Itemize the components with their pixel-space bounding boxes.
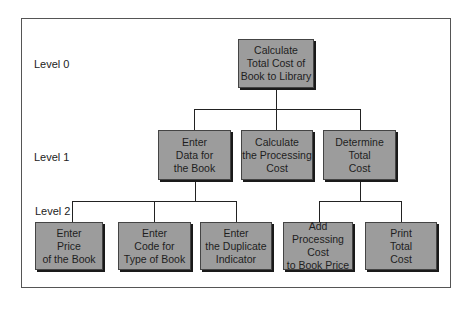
node-add-processing-cost: Add Processing Cost to Book Price — [283, 222, 353, 270]
node-calculate-total-cost: Calculate Total Cost of Book to Library — [238, 39, 314, 88]
connector-line — [195, 180, 196, 201]
connector-line — [236, 201, 237, 222]
connector-line — [194, 109, 361, 110]
connector-line — [154, 201, 155, 222]
node-enter-price: Enter Price of the Book — [35, 222, 103, 270]
connector-line — [401, 201, 402, 222]
node-enter-code: Enter Code for Type of Book — [118, 222, 191, 270]
connector-line — [360, 109, 361, 130]
node-calculate-processing-cost: Calculate the Processing Cost — [241, 130, 313, 180]
connector-line — [194, 109, 195, 130]
level-0-label: Level 0 — [34, 58, 69, 70]
node-print-total-cost: Print Total Cost — [365, 222, 437, 270]
node-determine-total-cost: Determine Total Cost — [323, 130, 396, 180]
level-1-label: Level 1 — [34, 151, 69, 163]
connector-line — [319, 201, 320, 222]
connector-line — [276, 88, 277, 109]
node-enter-duplicate-indicator: Enter the Duplicate Indicator — [200, 222, 272, 270]
level-2-label: Level 2 — [35, 205, 70, 217]
connector-line — [72, 201, 73, 222]
node-enter-data: Enter Data for the Book — [158, 130, 231, 180]
connector-line — [276, 109, 277, 130]
connector-line — [319, 201, 402, 202]
connector-line — [360, 180, 361, 201]
